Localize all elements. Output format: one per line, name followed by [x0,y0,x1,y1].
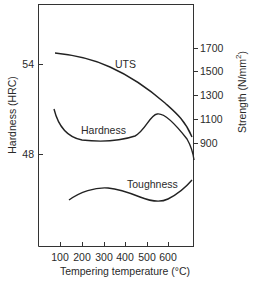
x-axis-label: Tempering temperature (°C) [60,265,190,277]
y-right-tick-1300: 1300 [200,89,224,101]
x-axis-tick-labels: 100 200 300 400 500 600 [51,251,177,263]
toughness-label: Toughness [127,178,178,190]
chart: 100 200 300 400 500 600 Tempering temper… [0,0,253,281]
x-tick-200: 200 [73,251,91,263]
y-left-tick-54: 54 [22,58,34,70]
hardness-label: Hardness [81,124,126,136]
y-right-tick-1700: 1700 [200,42,224,54]
y-right-tick-1500: 1500 [200,65,224,77]
y-right-axis-label: Strength (N/mm2) [234,51,248,133]
x-axis-ticks [61,242,169,246]
y-right-tick-labels: 1700 1500 1300 1100 900 [200,42,224,149]
x-tick-500: 500 [138,251,156,263]
x-tick-400: 400 [116,251,134,263]
uts-label: UTS [115,58,136,70]
x-tick-100: 100 [51,251,69,263]
y-right-tick-900: 900 [200,137,218,149]
x-tick-300: 300 [95,251,113,263]
y-left-tick-48: 48 [22,148,34,160]
y-right-tick-1100: 1100 [200,113,223,125]
x-tick-600: 600 [159,251,177,263]
y-left-axis-label: Hardness (HRC) [6,76,18,154]
